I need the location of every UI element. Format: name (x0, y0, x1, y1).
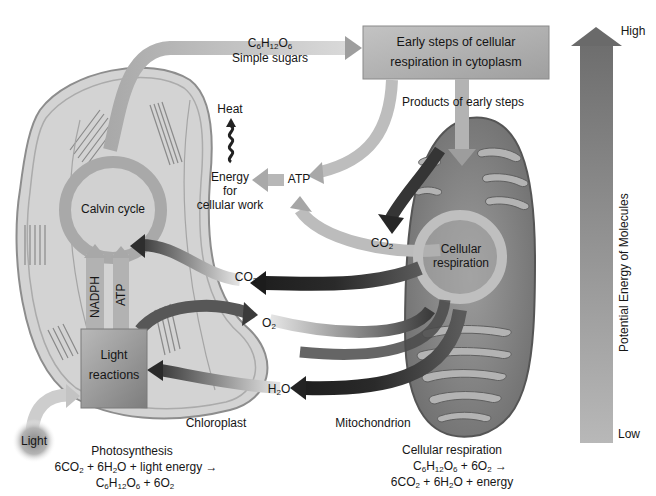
energy-low-label: Low (614, 427, 644, 441)
cellular-respiration-equation-line2: 6CO2 + 6H2O + energy (372, 475, 532, 489)
energy-for-work-label: Energy for cellular work (185, 170, 275, 212)
co2-middle-label: CO2 (232, 270, 260, 284)
energy-axis-shape (580, 45, 613, 443)
energy-high-label: High (616, 24, 650, 38)
early-steps-box: Early steps of cellular respiration in c… (363, 32, 549, 72)
simple-sugars-label: Simple sugars (215, 51, 325, 65)
sugar-formula-label: C6H12O6 (220, 36, 320, 50)
cellular-respiration-title: Cellular respiration (392, 443, 512, 457)
products-of-early-steps-label: Products of early steps (393, 95, 533, 109)
photosynthesis-equation-line2: C6H12O6 + 6O2 (80, 476, 190, 490)
nadph-label: NADPH (88, 276, 102, 318)
mitochondrion-label: Mitochondrion (328, 416, 418, 430)
o2-label: O2 (258, 316, 280, 330)
h2o-label: H2O (264, 382, 294, 396)
light-reactions-label: Light reactions (81, 345, 147, 385)
photosynthesis-equation-line1: 6CO2 + 6H2O + light energy → (36, 460, 236, 474)
early-steps-line2: respiration in cytoplasm (363, 52, 549, 72)
heat-label: Heat (205, 102, 255, 116)
light-label: Light (16, 434, 52, 448)
energy-axis-label: Potential Energy of Molecules (617, 193, 631, 352)
atp-vertical-label: ATP (114, 284, 128, 306)
cellular-respiration-equation-line1: C6H12O6 + 6O2 → (400, 459, 520, 473)
atp-label: ATP (284, 172, 314, 186)
calvin-cycle-label: Calvin cycle (68, 202, 158, 216)
cellular-respiration-circle-label: Cellular respiration (425, 242, 497, 270)
co2-upper-label: CO2 (368, 236, 396, 250)
chloroplast-label: Chloroplast (178, 416, 254, 430)
early-steps-line1: Early steps of cellular (363, 32, 549, 52)
photosynthesis-title: Photosynthesis (82, 444, 182, 458)
